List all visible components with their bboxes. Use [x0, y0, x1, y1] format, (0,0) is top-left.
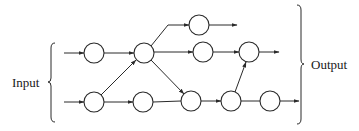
output-label: Output	[311, 58, 347, 71]
edge-n3-n2	[101, 60, 136, 95]
node-n6	[193, 42, 213, 62]
output-brace	[297, 5, 304, 124]
edge-n9-n7	[235, 62, 246, 92]
node-n2	[134, 43, 154, 63]
input-label: Input	[12, 76, 39, 89]
node-n1	[84, 43, 104, 63]
node-n4	[133, 92, 153, 112]
edge-n2-n5	[151, 25, 189, 46]
edge-n4-n8	[153, 101, 181, 102]
node-n9	[221, 91, 241, 111]
node-n3	[84, 92, 104, 112]
node-n10	[260, 91, 280, 111]
node-n5	[189, 15, 209, 35]
node-n7	[239, 42, 259, 62]
input-brace	[48, 43, 55, 122]
node-n8	[181, 91, 201, 111]
edge-n2-n8	[151, 60, 184, 94]
network-diagram	[0, 0, 359, 131]
